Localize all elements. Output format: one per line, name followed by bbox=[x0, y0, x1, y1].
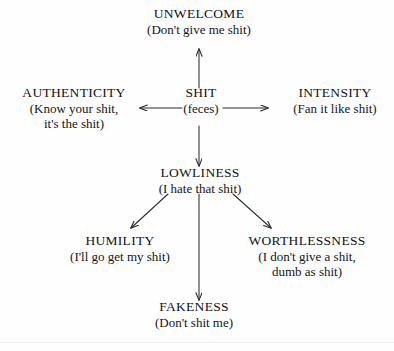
node-intensity-title: INTENSITY bbox=[293, 85, 376, 101]
page-edge-artifact bbox=[0, 342, 394, 343]
node-intensity-gloss: (Fan it like shit) bbox=[293, 101, 376, 116]
node-shit: SHIT (feces) bbox=[183, 85, 218, 116]
concept-diagram: UNWELCOME (Don't give me shit) AUTHENTIC… bbox=[0, 0, 394, 351]
node-shit-gloss: (feces) bbox=[183, 101, 218, 116]
node-humility: HUMILITY (I'll go get my shit) bbox=[70, 233, 170, 264]
node-unwelcome: UNWELCOME (Don't give me shit) bbox=[147, 6, 251, 37]
node-humility-gloss: (I'll go get my shit) bbox=[70, 249, 170, 264]
node-humility-title: HUMILITY bbox=[70, 233, 170, 249]
node-authenticity-title: AUTHENTICITY bbox=[22, 85, 125, 101]
node-authenticity: AUTHENTICITY (Know your shit, it's the s… bbox=[22, 85, 125, 132]
arrow-lowliness-to-worthlessness bbox=[233, 194, 271, 228]
node-lowliness-gloss: (I hate that shit) bbox=[159, 181, 242, 196]
arrow-lowliness-to-humility bbox=[131, 194, 168, 228]
node-worthlessness-gloss-line2: dumb as shit) bbox=[248, 264, 365, 279]
node-authenticity-gloss: (Know your shit, bbox=[22, 101, 125, 116]
node-unwelcome-title: UNWELCOME bbox=[147, 6, 251, 22]
node-shit-title: SHIT bbox=[183, 85, 218, 101]
node-fakeness-gloss: (Don't shit me) bbox=[155, 315, 233, 330]
node-worthlessness-title: WORTHLESSNESS bbox=[248, 233, 365, 249]
node-worthlessness-gloss: (I don't give a shit, bbox=[248, 249, 365, 264]
node-intensity: INTENSITY (Fan it like shit) bbox=[293, 85, 376, 116]
node-authenticity-gloss-line2: it's the shit) bbox=[22, 116, 125, 131]
node-lowliness: LOWLINESS (I hate that shit) bbox=[159, 165, 242, 196]
node-lowliness-title: LOWLINESS bbox=[159, 165, 242, 181]
node-worthlessness: WORTHLESSNESS (I don't give a shit, dumb… bbox=[248, 233, 365, 280]
node-fakeness: FAKENESS (Don't shit me) bbox=[155, 299, 233, 330]
node-fakeness-title: FAKENESS bbox=[155, 299, 233, 315]
node-unwelcome-gloss: (Don't give me shit) bbox=[147, 22, 251, 37]
